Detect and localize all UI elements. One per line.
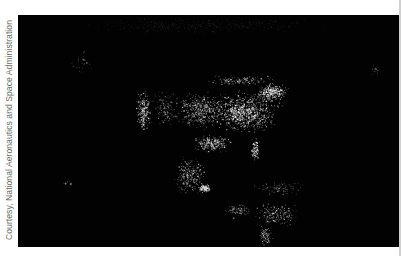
city-lights-map bbox=[18, 15, 400, 247]
earth-at-night-photo bbox=[18, 15, 400, 247]
page: Courtesy, National Aeronautics and Space… bbox=[0, 0, 401, 256]
photo-credit-text: Courtesy, National Aeronautics and Space… bbox=[4, 20, 14, 240]
photo-credit-caption: Courtesy, National Aeronautics and Space… bbox=[0, 0, 18, 256]
